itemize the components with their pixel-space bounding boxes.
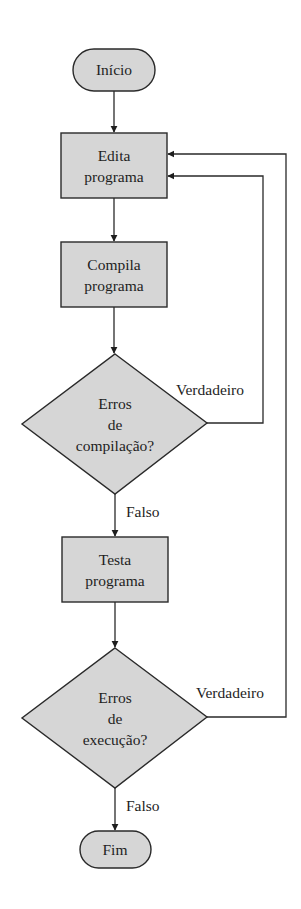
compile-program-process: Compila programa — [61, 242, 167, 307]
compile-false-label: Falso — [126, 503, 160, 520]
run-true-label: Verdadeiro — [196, 684, 264, 701]
edit-label-line1: Edita — [98, 147, 131, 164]
compile-check-line2: de — [108, 416, 123, 433]
edit-label-line2: programa — [84, 168, 144, 185]
flowchart-canvas: Início Edita programa Compila programa E… — [0, 0, 301, 909]
end-label: Fim — [103, 841, 128, 858]
test-program-process: Testa programa — [62, 537, 168, 602]
compile-label-line1: Compila — [87, 256, 141, 273]
run-check-line2: de — [108, 710, 123, 727]
edit-program-process: Edita programa — [61, 133, 167, 198]
test-label-line2: programa — [85, 572, 145, 589]
compile-check-line1: Erros — [98, 395, 132, 412]
test-label-line1: Testa — [99, 551, 132, 568]
compile-errors-decision: Erros de compilação? — [22, 354, 207, 494]
run-check-line3: execução? — [83, 731, 148, 748]
end-terminal: Fim — [80, 831, 151, 868]
compile-true-label: Verdadeiro — [176, 381, 244, 398]
runtime-errors-decision: Erros de execução? — [22, 648, 207, 788]
start-label: Início — [96, 61, 132, 78]
run-false-label: Falso — [126, 797, 160, 814]
compile-check-line3: compilação? — [76, 437, 154, 454]
compile-label-line2: programa — [84, 277, 144, 294]
run-check-line1: Erros — [98, 689, 132, 706]
start-terminal: Início — [73, 49, 155, 91]
